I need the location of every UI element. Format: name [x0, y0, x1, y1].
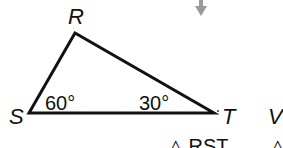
vertex-label-r: R	[68, 6, 84, 28]
triangle-diagram	[0, 0, 283, 148]
caption-triangle-rst: △ RST	[168, 136, 229, 148]
caption-triangle-second: △	[270, 136, 283, 148]
vertex-label-s: S	[9, 106, 24, 128]
vertex-label-t: T	[222, 106, 235, 128]
down-arrow-icon	[195, 0, 207, 16]
vertex-label-v: V	[268, 106, 283, 128]
angle-label-t: 30°	[139, 93, 169, 113]
angle-label-s: 60°	[45, 93, 75, 113]
point-dot	[217, 110, 219, 112]
